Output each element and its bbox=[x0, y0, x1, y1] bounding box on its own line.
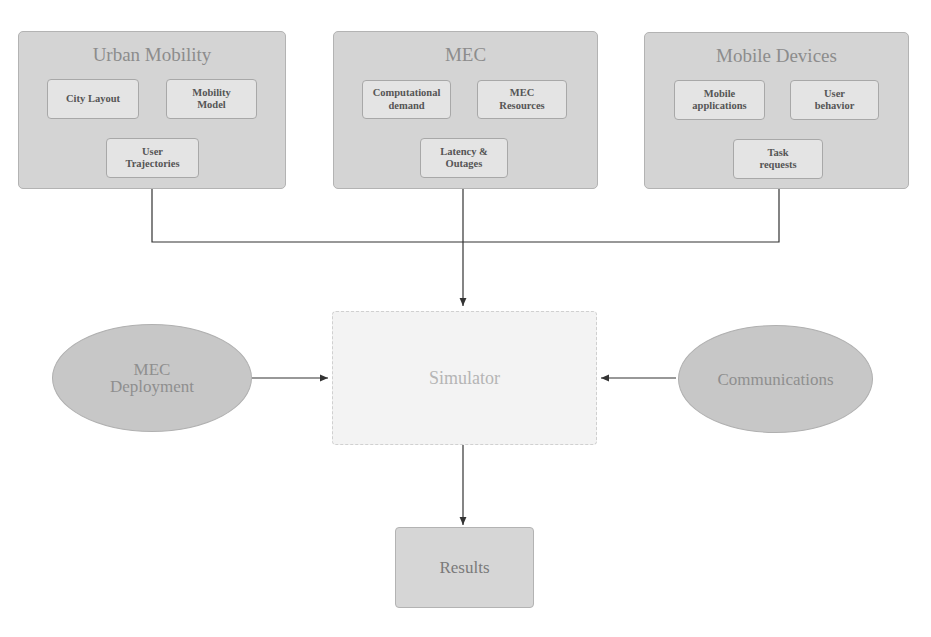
ellipse-communications: Communications bbox=[678, 325, 873, 433]
node-mec-resources: MEC Resources bbox=[477, 80, 567, 119]
node-user-behavior: User behavior bbox=[790, 80, 879, 120]
node-user-trajectories: User Trajectories bbox=[106, 138, 199, 178]
node-computational-demand: Computational demand bbox=[362, 80, 451, 119]
group-mec: MEC Computational demand MEC Resources L… bbox=[333, 31, 598, 189]
group-title: MEC bbox=[334, 44, 597, 66]
node-task-requests: Task requests bbox=[733, 139, 823, 179]
group-mobile-devices: Mobile Devices Mobile applications User … bbox=[644, 32, 909, 189]
group-title: Urban Mobility bbox=[19, 44, 285, 66]
node-mobile-applications: Mobile applications bbox=[674, 80, 765, 120]
node-latency-outages: Latency & Outages bbox=[420, 138, 508, 178]
node-simulator: Simulator bbox=[332, 311, 597, 445]
group-urban-mobility: Urban Mobility City Layout Mobility Mode… bbox=[18, 31, 286, 189]
node-results: Results bbox=[395, 527, 534, 608]
group-title: Mobile Devices bbox=[645, 45, 908, 67]
node-mobility-model: Mobility Model bbox=[166, 79, 257, 119]
ellipse-mec-deployment: MEC Deployment bbox=[52, 324, 252, 432]
node-city-layout: City Layout bbox=[47, 79, 139, 119]
